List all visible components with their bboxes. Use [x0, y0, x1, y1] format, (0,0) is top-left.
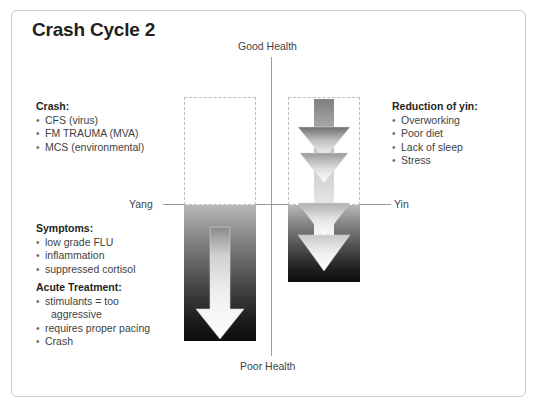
list-item: Poor diet	[392, 127, 478, 141]
list-item: Stress	[392, 154, 478, 168]
diagram-canvas: Crash Cycle 2 Good Health Poor Health Ya…	[0, 0, 538, 409]
list-item: stimulants = too	[36, 295, 150, 309]
symptoms-text-block: Symptoms: low grade FLU inflammation sup…	[36, 222, 135, 276]
reduction-of-yin-list: Overworking Poor diet Lack of sleep Stre…	[392, 114, 478, 168]
list-item: CFS (virus)	[36, 114, 144, 128]
reduction-of-yin-heading: Reduction of yin:	[392, 100, 478, 114]
list-item: Lack of sleep	[392, 141, 478, 155]
axis-label-yang: Yang	[129, 198, 153, 210]
acute-treatment-text-block: Acute Treatment: stimulants = too aggres…	[36, 281, 150, 349]
list-item: low grade FLU	[36, 236, 135, 250]
crash-heading: Crash:	[36, 100, 144, 114]
reduction-of-yin-text-block: Reduction of yin: Overworking Poor diet …	[392, 100, 478, 168]
axis-label-good-health: Good Health	[238, 40, 297, 52]
symptoms-list: low grade FLU inflammation suppressed co…	[36, 236, 135, 277]
axis-label-poor-health: Poor Health	[240, 360, 295, 372]
list-item: FM TRAUMA (MVA)	[36, 127, 144, 141]
symptoms-heading: Symptoms:	[36, 222, 135, 236]
list-item: inflammation	[36, 249, 135, 263]
yang-column-depletion-fill	[184, 205, 256, 341]
acute-treatment-list: stimulants = too aggressive requires pro…	[36, 295, 150, 349]
yin-column-depletion-fill	[288, 205, 360, 282]
list-item: Crash	[36, 335, 150, 349]
yin-column-reserve-box	[288, 97, 360, 205]
crash-text-block: Crash: CFS (virus) FM TRAUMA (MVA) MCS (…	[36, 100, 144, 154]
list-item-continuation: aggressive	[36, 308, 150, 322]
axis-label-yin: Yin	[394, 198, 409, 210]
crash-list: CFS (virus) FM TRAUMA (MVA) MCS (environ…	[36, 114, 144, 155]
page-title: Crash Cycle 2	[32, 19, 155, 41]
list-item: MCS (environmental)	[36, 141, 144, 155]
yang-column-reserve-box	[184, 97, 256, 205]
list-item: requires proper pacing	[36, 322, 150, 336]
acute-treatment-heading: Acute Treatment:	[36, 281, 150, 295]
list-item: suppressed cortisol	[36, 263, 135, 277]
list-item: Overworking	[392, 114, 478, 128]
vertical-health-axis	[271, 57, 272, 356]
